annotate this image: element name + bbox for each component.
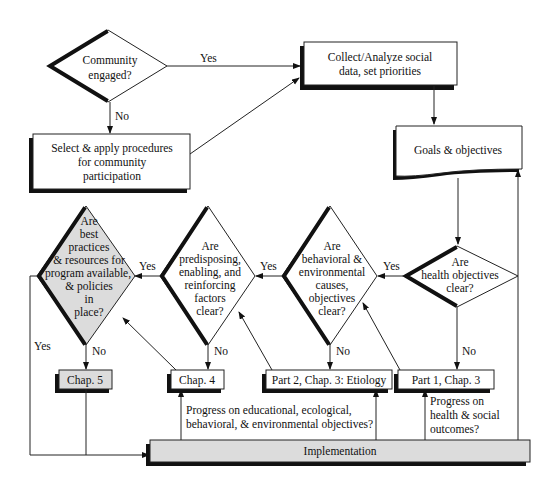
- node-text: Implementation: [304, 445, 377, 458]
- node-text: Chap. 5: [67, 374, 103, 387]
- node-text: in: [85, 293, 94, 305]
- node-text: clear?: [318, 305, 345, 317]
- edge-label-yes: Yes: [260, 260, 277, 272]
- edge-part2-to-predisposing: [239, 312, 272, 370]
- health-objectives-decision: Are health objectives clear?: [404, 246, 518, 307]
- progress-health-annotation: outcomes?: [430, 423, 479, 435]
- node-text: factors: [194, 292, 226, 304]
- part2-chap3-box: Part 2, Chap. 3: Etiology: [262, 370, 392, 393]
- node-text: clear?: [196, 305, 223, 317]
- node-text: Community: [83, 54, 138, 67]
- progress-educational-annotation: Progress on educational, ecological,: [186, 404, 352, 417]
- node-text: & resources for: [53, 254, 125, 266]
- edge-label-no: No: [92, 345, 106, 357]
- community-engaged-decision: Community engaged?: [49, 30, 167, 102]
- node-text: Collect/Analyze social: [328, 51, 432, 64]
- chap4-box: Chap. 4: [167, 370, 224, 393]
- edge-chap4-to-best: [123, 318, 176, 370]
- node-text: predisposing,: [179, 253, 241, 266]
- svg-text:engaged?: engaged?: [88, 69, 131, 82]
- node-text: data, set priorities: [339, 65, 422, 78]
- edge-label-no: No: [462, 345, 476, 357]
- progress-health-annotation: Progress on: [430, 395, 484, 408]
- node-text: best: [80, 228, 99, 240]
- progress-educational-annotation: behavioral, & environmental objectives?: [186, 418, 373, 431]
- node-text: health objectives: [421, 269, 499, 282]
- part1-chap3-box: Part 1, Chap. 3: [394, 370, 494, 393]
- edge-label-no: No: [214, 345, 228, 357]
- collect-analyze-box: Collect/Analyze social data, set priorit…: [300, 42, 457, 90]
- node-text: Are: [323, 240, 340, 252]
- node-text: Select & apply procedures: [51, 142, 173, 155]
- node-text: objectives: [309, 292, 356, 305]
- chap5-box: Chap. 5: [55, 370, 112, 393]
- node-text: Are: [80, 215, 97, 227]
- edge-part1-to-behavioral: [363, 303, 400, 370]
- edge-select-to-collect: [190, 78, 299, 154]
- node-text: Goals & objectives: [414, 144, 503, 157]
- node-text: causes,: [316, 279, 349, 292]
- node-text: for community: [78, 156, 147, 169]
- node-text: Are: [451, 256, 468, 268]
- svg-text:Community: Community: [83, 54, 138, 67]
- edge-label-yes: Yes: [139, 260, 156, 272]
- edge-label-yes: Yes: [200, 52, 217, 64]
- node-text: participation: [83, 170, 141, 183]
- node-text: Part 1, Chap. 3: [412, 374, 481, 387]
- node-text: program available,: [45, 267, 131, 280]
- edge-label-yes: Yes: [383, 260, 400, 272]
- edge-label-no: No: [336, 345, 350, 357]
- node-text: & policies: [65, 280, 113, 293]
- node-text: engaged?: [88, 69, 131, 82]
- progress-health-annotation: health & social: [430, 409, 500, 421]
- edge-label-no: No: [115, 110, 129, 122]
- select-procedures-box: Select & apply procedures for community …: [29, 134, 190, 193]
- node-text: clear?: [446, 282, 473, 294]
- node-text: Part 2, Chap. 3: Etiology: [272, 374, 387, 387]
- edge-label-yes: Yes: [34, 340, 51, 352]
- flowchart: Community engaged? Yes No Select & apply…: [0, 0, 549, 490]
- node-text: enabling, and: [179, 266, 241, 279]
- node-text: Chap. 4: [179, 374, 215, 387]
- best-practices-decision: Are best practices & resources for progr…: [37, 206, 135, 345]
- node-text: reinforcing: [184, 279, 235, 292]
- node-text: behavioral &: [302, 253, 362, 265]
- node-text: environmental: [299, 266, 365, 278]
- predisposing-factors-decision: Are predisposing, enabling, and reinforc…: [160, 206, 255, 345]
- node-text: practices: [69, 241, 110, 254]
- node-text: place?: [74, 306, 103, 319]
- node-text: Are: [201, 240, 218, 252]
- implementation-box: Implementation: [146, 440, 530, 466]
- behavioral-causes-decision: Are behavioral & environmental causes, o…: [282, 206, 377, 345]
- goals-objectives-box: Goals & objectives: [393, 126, 522, 180]
